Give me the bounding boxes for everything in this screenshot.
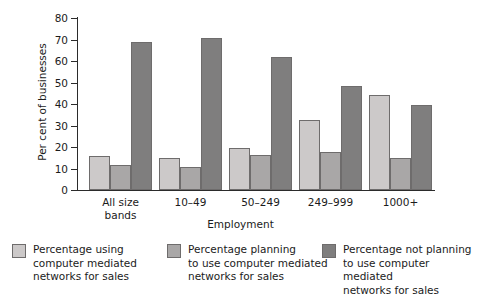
bar — [271, 57, 292, 190]
y-tick-label: 30 — [44, 121, 68, 131]
legend-swatch-planning — [167, 244, 181, 258]
y-tick-mark — [71, 104, 77, 105]
legend-item-planning: Percentage planning to use computer medi… — [167, 243, 328, 284]
y-tick-mark — [71, 18, 77, 19]
y-tick-label: 40 — [44, 99, 68, 109]
y-tick-label: 70 — [44, 35, 68, 45]
bar — [411, 105, 432, 190]
bar — [299, 120, 320, 190]
legend-swatch-using — [12, 244, 26, 258]
legend-item-using: Percentage using computer mediated netwo… — [12, 243, 137, 284]
plot-area — [78, 18, 428, 190]
bar — [159, 158, 180, 190]
y-tick-mark — [71, 169, 77, 170]
bar — [180, 167, 201, 190]
bar — [390, 158, 411, 190]
y-tick-label: 20 — [44, 142, 68, 152]
legend-item-not-planning: Percentage not planning to use computer … — [322, 243, 481, 296]
x-tick-label: 1000+ — [353, 196, 449, 209]
bar-group — [229, 18, 292, 190]
y-tick-mark — [71, 61, 77, 62]
bar — [89, 156, 110, 190]
y-tick-label: 60 — [44, 56, 68, 66]
bar — [229, 148, 250, 190]
legend-label-using: Percentage using computer mediated netwo… — [33, 243, 137, 284]
x-axis-line — [77, 190, 435, 191]
bar — [131, 42, 152, 190]
y-tick-mark — [71, 40, 77, 41]
legend-label-not-planning: Percentage not planning to use computer … — [343, 243, 481, 296]
bar-chart-figure: Per cent of businesses 01020304050607080… — [0, 0, 481, 296]
y-tick-label: 50 — [44, 78, 68, 88]
y-tick-label: 80 — [44, 13, 68, 23]
bar — [250, 155, 271, 190]
x-axis-title: Employment — [0, 218, 481, 230]
y-tick-mark — [71, 190, 77, 191]
y-tick-mark — [71, 83, 77, 84]
bar — [341, 86, 362, 190]
y-tick-label: 10 — [44, 164, 68, 174]
y-tick-label: 0 — [44, 185, 68, 195]
bar — [369, 95, 390, 190]
chart-legend: Percentage using computer mediated netwo… — [0, 243, 481, 293]
y-tick-mark — [71, 126, 77, 127]
y-tick-mark — [71, 147, 77, 148]
bar — [320, 152, 341, 190]
bar-group — [369, 18, 432, 190]
bar — [110, 165, 131, 190]
bar-group — [299, 18, 362, 190]
bar-group — [159, 18, 222, 190]
bar-group — [89, 18, 152, 190]
legend-swatch-not-planning — [322, 244, 336, 258]
bar — [201, 38, 222, 190]
legend-label-planning: Percentage planning to use computer medi… — [188, 243, 328, 284]
